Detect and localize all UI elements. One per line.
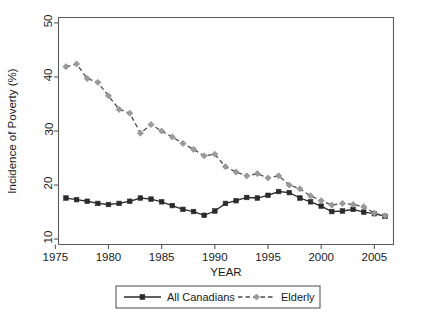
poverty-incidence-chart: 1020304050 1975198019851990199520002005 … [0, 0, 432, 320]
data-point-marker [95, 79, 101, 85]
x-tick-label: 1980 [96, 251, 122, 263]
data-point-marker [234, 198, 239, 203]
data-point-marker [308, 200, 313, 205]
data-point-marker [159, 128, 165, 134]
data-point-marker [117, 201, 122, 206]
y-axis-ticks: 1020304050 [43, 15, 59, 244]
data-point-marker [64, 196, 69, 201]
x-axis-title: YEAR [210, 266, 241, 278]
data-point-marker [266, 193, 271, 198]
data-point-marker [361, 204, 367, 210]
data-point-marker [169, 134, 175, 140]
series-all-canadians [64, 189, 388, 218]
y-tick-label: 20 [43, 177, 55, 190]
data-point-marker [96, 201, 101, 206]
data-point-marker [106, 202, 111, 207]
chart-legend: All CanadiansElderly [116, 286, 320, 308]
data-point-marker [244, 173, 250, 179]
data-point-marker [223, 201, 228, 206]
x-tick-label: 1995 [255, 251, 281, 263]
data-point-marker [287, 190, 292, 195]
data-point-marker [350, 201, 356, 207]
y-tick-label: 30 [43, 123, 55, 136]
data-point-marker [319, 204, 324, 209]
data-point-marker [265, 175, 271, 181]
series-elderly [63, 61, 388, 219]
chart-canvas: 1020304050 1975198019851990199520002005 … [0, 0, 432, 320]
data-point-marker [180, 140, 186, 146]
data-point-marker [202, 213, 207, 218]
data-point-marker [329, 202, 335, 208]
x-tick-label: 1990 [202, 251, 228, 263]
x-tick-label: 1985 [149, 251, 175, 263]
data-point-marker [170, 203, 175, 208]
data-point-marker [63, 64, 69, 70]
x-tick-label: 2005 [362, 251, 388, 263]
data-point-marker [222, 164, 228, 170]
data-point-marker [190, 146, 196, 152]
data-point-marker [137, 130, 143, 136]
data-point-marker [148, 121, 154, 127]
data-point-marker [138, 196, 143, 201]
legend-label-elderly: Elderly [281, 291, 315, 303]
data-point-marker [191, 209, 196, 214]
data-point-marker [149, 197, 154, 202]
data-point-marker [330, 209, 335, 214]
data-point-marker [159, 200, 164, 205]
data-point-marker [233, 169, 239, 175]
data-point-marker [339, 200, 345, 206]
x-axis-ticks: 1975198019851990199520002005 [43, 245, 388, 263]
data-point-marker [255, 196, 260, 201]
data-point-marker [276, 189, 281, 194]
legend-label-all-canadians: All Canadians [167, 291, 235, 303]
series-line [66, 64, 385, 216]
data-point-marker [127, 199, 132, 204]
data-point-marker [244, 195, 249, 200]
y-tick-label: 50 [43, 15, 55, 28]
data-point-marker [318, 198, 324, 204]
data-point-marker [181, 207, 186, 212]
x-tick-label: 1975 [43, 251, 69, 263]
x-tick-label: 2000 [308, 251, 334, 263]
data-series-group [63, 61, 388, 219]
y-tick-label: 40 [43, 69, 55, 82]
data-point-marker [74, 197, 79, 202]
data-point-marker [85, 199, 90, 204]
data-point-marker [298, 196, 303, 201]
data-point-marker [201, 153, 207, 159]
legend-marker-swatch [140, 295, 145, 300]
data-point-marker [340, 209, 345, 214]
data-point-marker [361, 210, 366, 215]
data-point-marker [127, 110, 133, 116]
data-point-marker [73, 61, 79, 67]
data-point-marker [213, 209, 218, 214]
y-tick-label: 10 [43, 231, 55, 244]
y-axis-title: Incidence of Poverty (%) [6, 68, 18, 193]
data-point-marker [254, 171, 260, 177]
